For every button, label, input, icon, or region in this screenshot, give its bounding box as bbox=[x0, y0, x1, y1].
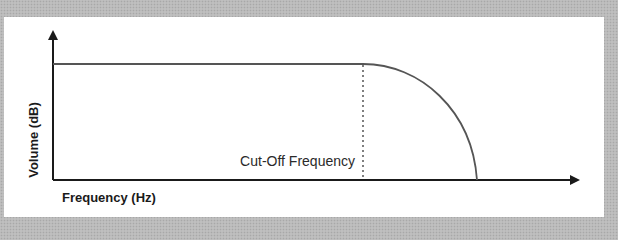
filter-response-diagram: Cut-Off Frequency Frequency (Hz) Volume … bbox=[0, 0, 618, 229]
x-axis-label: Frequency (Hz) bbox=[62, 190, 156, 205]
y-axis-label: Volume (dB) bbox=[26, 102, 41, 178]
rolloff-curve bbox=[363, 64, 477, 180]
cutoff-label: Cut-Off Frequency bbox=[240, 153, 355, 169]
